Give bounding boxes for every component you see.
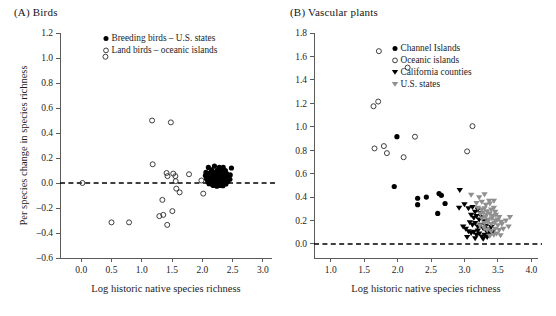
x-tick-label: 2.0 — [392, 265, 404, 275]
data-point-gray-triangle-down — [476, 195, 482, 200]
legend-label: Land birds – oceanic islands — [112, 45, 218, 55]
panel-b-plot: 1.81.61.41.21.00.80.60.40.20.01.01.52.02… — [278, 0, 556, 316]
data-point-filled-circle — [435, 211, 440, 216]
y-tick-label: 0.0 — [295, 239, 307, 249]
x-tick-label: 1.0 — [136, 265, 148, 275]
data-point-open-circle — [165, 174, 170, 179]
x-tick-label: 1.5 — [166, 265, 178, 275]
legend: Channel IslandsOceanic islandsCalifornia… — [392, 43, 472, 89]
data-point-open-circle — [372, 146, 377, 151]
data-point-open-circle — [109, 220, 114, 225]
data-point-open-circle — [150, 118, 155, 123]
legend-label: Channel Islands — [401, 43, 461, 53]
data-point-open-circle — [150, 162, 155, 167]
data-point-gray-triangle-down — [468, 193, 474, 198]
x-tick-label: 3.0 — [257, 265, 269, 275]
legend-label: California counties — [401, 67, 472, 77]
series-open-circle — [371, 49, 475, 160]
x-tick-label: 3.0 — [459, 265, 471, 275]
x-tick-label: 1.5 — [358, 265, 370, 275]
data-point-black-triangle-down — [480, 237, 486, 242]
y-tick-label: 0.2 — [295, 216, 307, 226]
y-tick-label: 0.4 — [295, 192, 307, 202]
data-point-filled-circle — [439, 193, 444, 198]
y-axis-title: Per species change in species richness — [18, 65, 29, 225]
series-filled-circle — [392, 134, 448, 216]
data-point-open-circle — [164, 171, 169, 176]
panel-a-birds: (A) Birds 1.21.00.80.60.40.20.0–0.2–0.4–… — [0, 0, 278, 316]
x-tick-label: 0.5 — [106, 265, 118, 275]
data-point-black-triangle-down — [472, 236, 478, 241]
data-point-open-circle — [168, 120, 173, 125]
figure-container: (A) Birds 1.21.00.80.60.40.20.0–0.2–0.4–… — [0, 0, 556, 316]
data-point-open-circle — [127, 220, 132, 225]
y-tick-label: 1.6 — [295, 52, 307, 62]
y-tick-label: 0.0 — [41, 178, 53, 188]
legend-label: U.S. states — [401, 79, 441, 89]
x-tick-label: 1.0 — [325, 265, 337, 275]
y-tick-label: –0.6 — [35, 253, 53, 263]
legend-marker-gray-triangle-down — [392, 82, 398, 87]
data-point-gray-triangle-down — [481, 192, 487, 197]
data-point-black-triangle-down — [457, 188, 463, 193]
data-point-open-circle — [173, 179, 178, 184]
data-point-filled-circle — [392, 184, 397, 189]
data-point-open-circle — [381, 144, 386, 149]
y-tick-label: 1.4 — [295, 75, 307, 85]
data-point-open-circle — [177, 190, 182, 195]
data-point-open-circle — [465, 149, 470, 154]
y-tick-label: 0.8 — [295, 146, 307, 156]
y-tick-label: 1.2 — [295, 99, 307, 109]
data-point-open-circle — [384, 151, 389, 156]
y-tick-label: 1.8 — [295, 28, 307, 38]
x-tick-label: 3.5 — [492, 265, 504, 275]
panel-b-vascular-plants: (B) Vascular plants 1.81.61.41.21.00.80.… — [278, 0, 556, 316]
data-point-open-circle — [470, 124, 475, 129]
legend-label: Breeding birds – U.S. states — [112, 33, 216, 43]
x-axis-title: Log historic native species richness — [351, 283, 500, 294]
legend-marker-filled-circle — [393, 46, 398, 51]
data-point-filled-circle — [229, 165, 234, 170]
data-point-open-circle — [376, 49, 381, 54]
data-point-filled-circle — [228, 172, 233, 177]
legend-marker-filled-circle — [104, 36, 109, 41]
y-tick-label: –0.4 — [35, 228, 53, 238]
x-tick-label: 0.0 — [75, 265, 87, 275]
y-tick-label: 1.0 — [41, 53, 53, 63]
data-point-filled-circle — [442, 201, 447, 206]
data-point-black-triangle-down — [464, 235, 470, 240]
data-point-open-circle — [199, 178, 204, 183]
data-point-open-circle — [401, 155, 406, 160]
y-tick-label: 0.6 — [295, 169, 307, 179]
x-tick-label: 2.5 — [425, 265, 437, 275]
data-point-filled-circle — [415, 202, 420, 207]
data-point-open-circle — [165, 222, 170, 227]
legend-label: Oceanic islands — [401, 55, 460, 65]
data-point-open-circle — [371, 104, 376, 109]
y-tick-label: 0.8 — [41, 78, 53, 88]
data-point-gray-triangle-down — [497, 233, 503, 238]
series-open-circle — [80, 54, 206, 227]
x-tick-label: 2.5 — [227, 265, 239, 275]
y-tick-label: 0.6 — [41, 103, 53, 113]
data-point-filled-circle — [220, 183, 225, 188]
data-point-open-circle — [160, 197, 165, 202]
data-point-filled-circle — [424, 194, 429, 199]
data-point-open-circle — [412, 134, 417, 139]
y-tick-label: 1.0 — [295, 122, 307, 132]
data-point-open-circle — [187, 172, 192, 177]
data-point-black-triangle-down — [456, 206, 462, 211]
y-tick-label: 0.2 — [41, 153, 53, 163]
legend: Breeding birds – U.S. statesLand birds –… — [104, 33, 218, 55]
legend-marker-open-circle — [104, 48, 109, 53]
x-axis-title: Log historic native species richness — [91, 283, 240, 294]
panel-b-title: (B) Vascular plants — [290, 6, 378, 18]
x-tick-label: 4.0 — [525, 265, 537, 275]
data-point-filled-circle — [415, 196, 420, 201]
legend-marker-open-circle — [393, 58, 398, 63]
data-point-filled-circle — [394, 134, 399, 139]
data-point-open-circle — [201, 191, 206, 196]
series-filled-circle — [203, 164, 234, 189]
panel-a-plot: 1.21.00.80.60.40.20.0–0.2–0.4–0.60.00.51… — [0, 0, 278, 316]
legend-marker-black-triangle-down — [392, 70, 398, 75]
